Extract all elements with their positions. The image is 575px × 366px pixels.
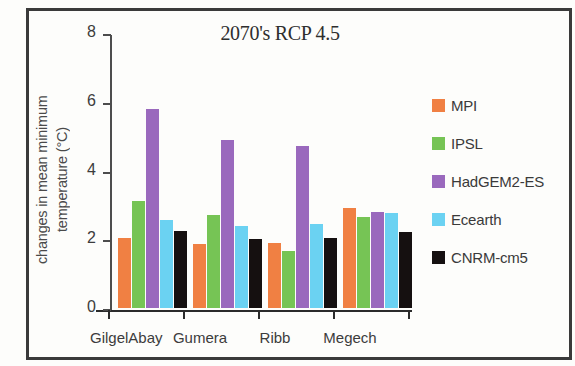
bar-ipsl-gilgelabay [132, 201, 145, 308]
chart-legend: MPIIPSLHadGEM2-ESEcearthCNRM-cm5 [432, 86, 567, 276]
bar-ecearth-gilgelabay [160, 220, 173, 308]
x-tick-megech [333, 310, 335, 319]
bar-ipsl-gumera [207, 215, 220, 308]
bar-ipsl-megech [357, 217, 370, 308]
y-tick-label: 4 [87, 161, 96, 179]
bar-hadgem2-es-ribb [296, 146, 309, 308]
y-tick-4: 4 [103, 172, 111, 174]
y-tick-6: 6 [103, 103, 111, 105]
bar-cnrm-cm5-gilgelabay [174, 231, 187, 308]
bar-ecearth-megech [385, 213, 398, 308]
bar-mpi-gilgelabay [118, 238, 131, 308]
y-tick-label: 8 [87, 23, 96, 41]
x-category-label-gilgelabay: GilgelAbay [90, 329, 160, 346]
y-axis-label: changes in mean minimum temperature (°C) [32, 40, 86, 320]
bar-mpi-gumera [193, 244, 206, 308]
bar-ipsl-ribb [282, 251, 295, 308]
legend-label: MPI [451, 97, 477, 114]
x-category-label-megech: Megech [315, 329, 385, 346]
legend-label: Ecearth [451, 211, 501, 228]
x-category-label-ribb: Ribb [240, 329, 310, 346]
legend-swatch-icon [432, 175, 445, 188]
page-frame-bottom [26, 357, 572, 360]
y-tick-label: 6 [87, 92, 96, 110]
y-axis-label-line2: temperature (°C) [54, 40, 70, 320]
x-category-label-gumera: Gumera [165, 329, 235, 346]
bar-group-gumera [193, 33, 262, 308]
y-tick-8: 8 [103, 34, 111, 36]
x-tick-ribb [258, 310, 260, 319]
bar-hadgem2-es-megech [371, 212, 384, 308]
y-tick-label: 2 [87, 229, 96, 247]
bar-cnrm-cm5-megech [399, 232, 412, 308]
x-tick-end [408, 310, 410, 319]
bar-hadgem2-es-gumera [221, 140, 234, 308]
bar-group-gilgelabay [118, 33, 187, 308]
x-axis-line [96, 310, 412, 312]
legend-item-ecearth[interactable]: Ecearth [432, 200, 567, 238]
page-frame-top [26, 8, 572, 11]
legend-swatch-icon [432, 251, 445, 264]
legend-label: HadGEM2-ES [451, 173, 544, 190]
bar-ecearth-gumera [235, 226, 248, 309]
bar-cnrm-cm5-ribb [324, 238, 337, 308]
bar-group-ribb [268, 33, 337, 308]
legend-item-ipsl[interactable]: IPSL [432, 124, 567, 162]
y-axis-line [110, 35, 112, 312]
page-frame-left [26, 8, 29, 360]
page-frame-right [569, 8, 572, 360]
y-tick-2: 2 [103, 240, 111, 242]
legend-swatch-icon [432, 137, 445, 150]
bar-mpi-ribb [268, 243, 281, 308]
legend-swatch-icon [432, 99, 445, 112]
legend-label: CNRM-cm5 [451, 249, 528, 266]
legend-item-cnrm-cm5[interactable]: CNRM-cm5 [432, 238, 567, 276]
plot-area: 02468 GilgelAbayGumeraRibbMegech [110, 35, 412, 310]
legend-item-hadgem2-es[interactable]: HadGEM2-ES [432, 162, 567, 200]
bar-ecearth-ribb [310, 224, 323, 308]
y-axis-label-line1: changes in mean minimum [34, 40, 50, 320]
legend-swatch-icon [432, 213, 445, 226]
y-tick-label: 0 [87, 298, 96, 316]
chart-figure: 2070's RCP 4.5 changes in mean minimum t… [0, 0, 575, 366]
legend-label: IPSL [451, 135, 483, 152]
x-tick-gilgelabay [108, 310, 110, 319]
x-tick-gumera [183, 310, 185, 319]
bar-hadgem2-es-gilgelabay [146, 109, 159, 308]
bar-cnrm-cm5-gumera [249, 239, 262, 308]
legend-item-mpi[interactable]: MPI [432, 86, 567, 124]
bar-group-megech [343, 33, 412, 308]
bar-mpi-megech [343, 208, 356, 308]
